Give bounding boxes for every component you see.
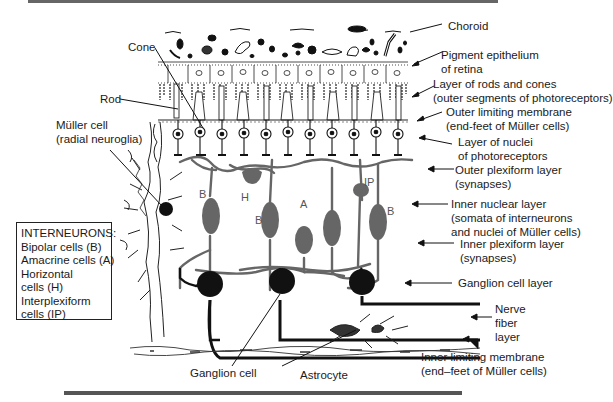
horizontal-cell <box>242 168 262 184</box>
label-b3: B <box>387 205 394 217</box>
bipolar-cell-3 <box>323 210 341 246</box>
label-nerve-fiber: Nerve <box>495 302 526 316</box>
label-muller-cell-sub: (radial neuroglia) <box>56 132 142 146</box>
label-inner-limiting-membrane: Inner limiting membrane <box>421 350 544 364</box>
label-nuclei-layer: Layer of nuclei <box>458 135 533 149</box>
label-pigment-epithelium-2: of retina <box>441 62 483 76</box>
label-outer-plexiform-2: (synapses) <box>455 177 511 191</box>
label-muller-cell: Müller cell <box>56 118 108 132</box>
interneurons-legend: INTERNEURONS: Bipolar cells (B) Amacrine… <box>16 222 112 320</box>
pigment-epithelium <box>158 62 408 83</box>
label-inner-plexiform: Inner plexiform layer <box>460 237 564 251</box>
ganglion-cell-1 <box>197 271 223 297</box>
label-ip: IP <box>364 176 374 188</box>
legend-item: Interplexiform <box>21 295 107 309</box>
label-outer-plexiform: Outer plexiform layer <box>455 163 562 177</box>
bipolar-cell-2 <box>261 202 279 238</box>
label-ganglion-layer: Ganglion cell layer <box>458 276 553 290</box>
label-inner-plexiform-2: (synapses) <box>460 251 516 265</box>
photoreceptor-nuclei <box>173 120 403 155</box>
legend-item: Horizontal <box>21 268 107 282</box>
label-inner-nuclear: Inner nuclear layer <box>451 197 546 211</box>
label-outer-limiting-membrane-2: (end-feet of Müller cells) <box>446 119 569 133</box>
label-b2: B <box>255 214 262 226</box>
ganglion-cell-3 <box>349 269 375 295</box>
label-inner-limiting-membrane-2: (end–feet of Müller cells) <box>421 364 547 378</box>
bipolar-cell-1 <box>202 198 220 234</box>
label-ganglion-cell: Ganglion cell <box>190 366 256 380</box>
amacrine-cell <box>295 226 313 254</box>
label-outer-limiting-membrane: Outer limiting membrane <box>446 105 572 119</box>
label-inner-nuclear-2: (somata of interneurons <box>451 211 572 225</box>
legend-item: Amacrine cells (A) <box>21 254 107 268</box>
label-b1: B <box>199 188 206 200</box>
label-h: H <box>241 191 249 203</box>
label-astrocyte: Astrocyte <box>300 368 348 382</box>
cell-letters: B H B A IP B <box>199 176 394 226</box>
legend-item: Bipolar cells (B) <box>21 241 107 255</box>
label-pigment-epithelium: Pigment epithelium <box>441 48 539 62</box>
muller-nucleus <box>159 202 173 216</box>
label-rods-cones: Layer of rods and cones <box>433 77 556 91</box>
label-rods-cones-2: (outer segments of photoreceptors) <box>433 91 613 105</box>
ganglion-cells <box>180 268 480 358</box>
label-rod: Rod <box>100 92 121 106</box>
astrocyte <box>330 314 408 348</box>
label-nuclei-layer-2: of photoreceptors <box>458 149 548 163</box>
legend-item: cells (IP) <box>21 308 107 322</box>
label-cone: Cone <box>128 40 156 54</box>
label-nerve-fiber-2: fiber <box>495 316 517 330</box>
label-nerve-fiber-3: layer <box>495 330 520 344</box>
label-a: A <box>300 198 308 210</box>
rods-cones-layer <box>160 84 406 120</box>
choroid-layer <box>165 26 407 58</box>
bipolar-cell-4 <box>369 204 387 240</box>
label-choroid: Choroid <box>448 19 488 33</box>
legend-title: INTERNEURONS: <box>21 227 107 241</box>
legend-item: cells (H) <box>21 281 107 295</box>
ganglion-cell-2 <box>269 268 295 294</box>
